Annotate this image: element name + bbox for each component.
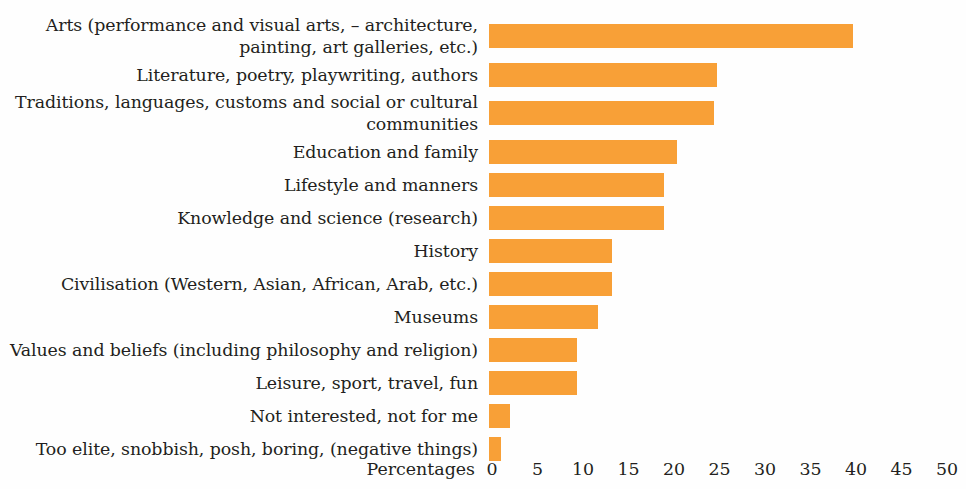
- bar: [489, 239, 612, 263]
- chart-rows: Arts (performance and visual arts, – arc…: [0, 14, 966, 465]
- bar-track: [478, 14, 966, 58]
- x-axis-title: Percentages: [367, 457, 475, 481]
- bar-track: [478, 135, 966, 168]
- x-tick-label: 30: [754, 457, 776, 481]
- category-label: Leisure, sport, travel, fun: [0, 372, 478, 394]
- category-label: Values and beliefs (including philosophy…: [0, 339, 478, 361]
- category-label: History: [0, 240, 478, 262]
- x-tick-label: 45: [890, 457, 912, 481]
- x-tick-label: 50: [936, 457, 958, 481]
- bar: [489, 206, 664, 230]
- x-tick-label: 15: [617, 457, 639, 481]
- category-label: Not interested, not for me: [0, 405, 478, 427]
- category-label: Museums: [0, 306, 478, 328]
- bar: [489, 101, 714, 125]
- bar-track: [478, 267, 966, 300]
- bar-track: [478, 91, 966, 135]
- chart-row: Arts (performance and visual arts, – arc…: [0, 14, 966, 58]
- x-tick-label: 20: [663, 457, 685, 481]
- chart-row: History: [0, 234, 966, 267]
- bar: [489, 24, 853, 48]
- chart-row: Not interested, not for me: [0, 399, 966, 432]
- bar-chart-figure: Arts (performance and visual arts, – arc…: [0, 0, 966, 489]
- bar: [489, 140, 677, 164]
- bar-track: [478, 201, 966, 234]
- x-tick-label: 35: [799, 457, 821, 481]
- bar: [489, 63, 717, 87]
- category-label: Lifestyle and manners: [0, 174, 478, 196]
- bar-track: [478, 399, 966, 432]
- chart-row: Values and beliefs (including philosophy…: [0, 333, 966, 366]
- bar-track: [478, 333, 966, 366]
- category-label: Knowledge and science (research): [0, 207, 478, 229]
- chart-row: Leisure, sport, travel, fun: [0, 366, 966, 399]
- bar-track: [478, 58, 966, 91]
- chart-row: Lifestyle and manners: [0, 168, 966, 201]
- x-axis: Percentages 05101520253035404550: [0, 455, 966, 489]
- x-tick-label: 0: [486, 457, 497, 481]
- chart-row: Traditions, languages, customs and socia…: [0, 91, 966, 135]
- chart-row: Civilisation (Western, Asian, African, A…: [0, 267, 966, 300]
- x-tick-label: 5: [532, 457, 543, 481]
- bar-track: [478, 300, 966, 333]
- chart-row: Museums: [0, 300, 966, 333]
- x-tick-label: 10: [572, 457, 594, 481]
- category-label: Arts (performance and visual arts, – arc…: [0, 14, 478, 58]
- bar: [489, 371, 577, 395]
- bar-track: [478, 168, 966, 201]
- bar: [489, 173, 664, 197]
- x-tick-label: 25: [708, 457, 730, 481]
- category-label: Education and family: [0, 141, 478, 163]
- bar-track: [478, 234, 966, 267]
- x-tick-label: 40: [845, 457, 867, 481]
- category-label: Civilisation (Western, Asian, African, A…: [0, 273, 478, 295]
- bar: [489, 338, 577, 362]
- bar: [489, 404, 510, 428]
- category-label: Traditions, languages, customs and socia…: [0, 91, 478, 135]
- chart-row: Education and family: [0, 135, 966, 168]
- bar: [489, 272, 612, 296]
- bar-track: [478, 366, 966, 399]
- bar: [489, 305, 598, 329]
- category-label: Literature, poetry, playwriting, authors: [0, 64, 478, 86]
- chart-row: Knowledge and science (research): [0, 201, 966, 234]
- chart-row: Literature, poetry, playwriting, authors: [0, 58, 966, 91]
